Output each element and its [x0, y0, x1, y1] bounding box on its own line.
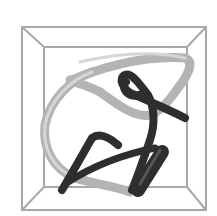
dark-tube [62, 75, 185, 190]
knot-rendering [0, 0, 217, 216]
frame-edge-tr [187, 27, 206, 47]
frame-edge-bl [22, 187, 44, 210]
light-tube [45, 54, 190, 192]
frame-edge-tl [22, 27, 44, 47]
frame-edge-br [187, 187, 206, 210]
